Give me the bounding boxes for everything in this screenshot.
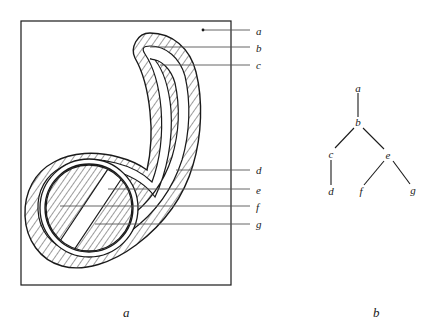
panel-a-group <box>0 0 260 300</box>
panel-b-caption: b <box>373 306 380 319</box>
tree-edge-b-c <box>335 128 354 148</box>
panel-a-caption: a <box>123 306 130 319</box>
tree-node-f: f <box>359 186 362 197</box>
tree-node-d: d <box>328 186 334 197</box>
tree-node-g: g <box>410 185 416 196</box>
panel-b-tree-edges <box>331 93 410 185</box>
tree-node-e: e <box>386 150 391 161</box>
tree-edge-e-g <box>393 161 410 184</box>
tree-node-b: b <box>355 117 361 128</box>
callout-label-e: e <box>256 185 261 196</box>
figure-svg <box>0 0 442 335</box>
callout-label-g: g <box>256 219 262 230</box>
tree-edge-e-f <box>364 161 384 185</box>
callout-label-c: c <box>256 60 261 71</box>
callout-label-f: f <box>256 202 259 213</box>
callout-label-d: d <box>256 165 262 176</box>
callout-label-a: a <box>256 26 262 37</box>
tree-node-c: c <box>329 149 334 160</box>
tree-edge-b-e <box>363 128 384 149</box>
callout-dot-a <box>202 29 205 32</box>
callout-label-b: b <box>256 43 262 54</box>
tree-node-a: a <box>355 83 361 94</box>
figure-canvas: a b c d e f g a b c e d f g a b <box>0 0 442 335</box>
